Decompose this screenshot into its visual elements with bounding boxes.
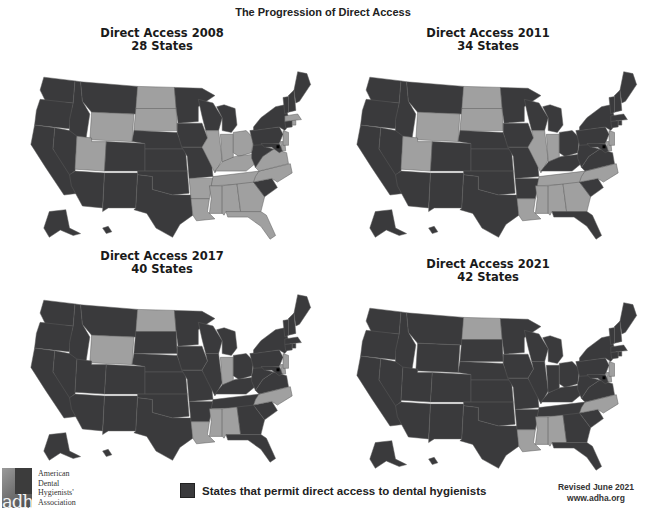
us-map <box>4 27 320 252</box>
logo-line: American <box>38 469 76 479</box>
state-nd <box>136 86 176 108</box>
state-nd <box>136 309 176 331</box>
state-nm <box>103 396 138 435</box>
state-nd <box>462 317 502 339</box>
state-ks <box>145 372 187 394</box>
logo-organization-name: American Dental Hygienists' Association <box>38 469 76 507</box>
state-me <box>294 295 311 326</box>
state-ak <box>370 441 407 469</box>
state-ct <box>611 121 618 128</box>
state-ia <box>177 123 207 147</box>
state-co <box>105 142 146 172</box>
state-nm <box>429 173 464 212</box>
adha-logo: adha American Dental Hygienists' Associa… <box>2 468 110 512</box>
state-ar <box>515 409 539 429</box>
state-nj <box>609 362 615 377</box>
state-co <box>431 142 472 172</box>
state-az <box>70 171 105 208</box>
state-ut <box>401 367 432 402</box>
map-panel-2008: Direct Access 2008 28 States <box>4 27 320 252</box>
state-co <box>431 373 472 403</box>
state-ks <box>471 149 513 171</box>
state-hi <box>429 226 438 233</box>
logo-line: Dental <box>38 479 76 489</box>
revised-date: Revised June 2021 <box>558 482 634 493</box>
logo-mark: adha <box>2 468 32 508</box>
legend-swatch <box>180 483 195 498</box>
state-ar <box>189 178 213 198</box>
us-map <box>330 258 646 483</box>
state-ut <box>75 136 106 171</box>
state-ak <box>44 210 81 238</box>
state-nj <box>283 354 289 369</box>
state-ks <box>471 380 513 402</box>
state-ar <box>189 401 213 421</box>
state-dc <box>277 368 280 371</box>
state-wa <box>40 77 75 103</box>
state-or <box>361 330 400 360</box>
main-title: The Progression of Direct Access <box>0 6 646 18</box>
state-nm <box>103 173 138 212</box>
state-ct <box>285 121 292 128</box>
state-ri <box>292 121 296 126</box>
state-ms <box>535 417 548 445</box>
state-oh <box>559 131 579 157</box>
state-wy <box>90 335 134 364</box>
map-panel-2011: Direct Access 2011 34 States <box>330 27 646 252</box>
state-ms <box>209 186 222 214</box>
state-az <box>396 402 431 439</box>
state-or <box>35 99 74 129</box>
us-map <box>4 250 320 475</box>
website-url: www.adha.org <box>558 493 634 504</box>
revision-info: Revised June 2021 www.adha.org <box>558 482 634 504</box>
state-wy <box>90 112 134 141</box>
state-ct <box>285 344 292 351</box>
state-sd <box>134 109 177 131</box>
state-ia <box>503 354 533 378</box>
state-hi <box>429 457 438 464</box>
legend: States that permit direct access to dent… <box>180 483 486 498</box>
state-ms <box>535 186 548 214</box>
state-ut <box>75 359 106 394</box>
logo-line: Hygienists' <box>38 488 76 498</box>
state-fl <box>552 443 602 471</box>
map-panel-2017: Direct Access 2017 40 States <box>4 250 320 475</box>
state-ms <box>209 409 222 437</box>
map-panel-2021: Direct Access 2021 42 States <box>330 258 646 483</box>
state-ak <box>370 210 407 238</box>
legend-label: States that permit direct access to dent… <box>202 485 486 497</box>
state-nj <box>283 131 289 146</box>
state-nd <box>462 86 502 108</box>
state-wa <box>366 308 401 334</box>
state-dc <box>277 145 280 148</box>
state-ct <box>611 352 618 359</box>
state-ut <box>401 136 432 171</box>
state-wa <box>366 77 401 103</box>
state-nm <box>429 404 464 443</box>
state-fl <box>552 212 602 240</box>
state-dc <box>603 376 606 379</box>
state-sd <box>460 109 503 131</box>
state-dc <box>603 145 606 148</box>
state-fl <box>226 435 276 463</box>
state-nj <box>609 131 615 146</box>
state-or <box>361 99 400 129</box>
state-me <box>294 72 311 103</box>
state-ia <box>503 123 533 147</box>
state-fl <box>226 212 276 240</box>
state-ri <box>618 352 622 357</box>
state-oh <box>233 354 253 380</box>
logo-letters: adha <box>2 491 32 508</box>
state-me <box>620 303 637 334</box>
state-mt <box>407 313 464 345</box>
state-oh <box>233 131 253 157</box>
state-sd <box>134 332 177 354</box>
state-oh <box>559 362 579 388</box>
state-ri <box>292 344 296 349</box>
state-me <box>620 72 637 103</box>
state-wy <box>416 112 460 141</box>
state-sd <box>460 340 503 362</box>
state-az <box>70 394 105 431</box>
state-hi <box>103 449 112 456</box>
logo-line: Association <box>38 498 76 508</box>
